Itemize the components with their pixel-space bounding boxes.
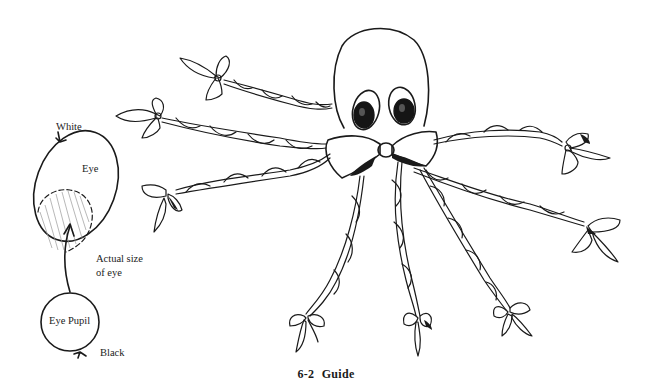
bow-upper-right <box>562 133 610 174</box>
left-eye-pupil <box>354 102 374 128</box>
tentacle-upper-left <box>224 80 332 109</box>
label-black: Black <box>100 346 125 360</box>
label-actual-size-line2: of eye <box>96 266 122 280</box>
tentacle-bottom-2 <box>392 162 420 316</box>
tentacle-lower-left <box>176 154 330 194</box>
size-arrow <box>65 226 70 292</box>
right-eye-pupil <box>394 99 414 123</box>
label-eye: Eye <box>82 162 98 176</box>
tentacle-upper-right <box>434 126 562 146</box>
pupil-size-dashed-outline <box>38 190 92 252</box>
bow-bottom-1 <box>290 315 325 352</box>
bow-mid-left <box>116 98 163 138</box>
bow-bottom-3 <box>494 303 532 336</box>
eye-white-oval <box>19 119 133 253</box>
illustration-canvas: White Eye Actual size of eye Eye Pupil B… <box>0 0 652 388</box>
caption-text: 6-2 Guide <box>297 367 354 381</box>
tentacle-lower-right <box>414 168 584 226</box>
label-white: White <box>56 120 82 134</box>
bow-upper-left <box>180 56 229 100</box>
label-actual-size-line1: Actual size <box>96 252 143 266</box>
right-eye-highlight <box>399 104 405 112</box>
black-arrow-icon <box>74 352 86 358</box>
tentacle-mid-left <box>162 118 326 149</box>
octopus-head <box>334 29 429 133</box>
bow-tie-left-shadow <box>350 156 376 176</box>
octopus-drawing <box>0 0 652 388</box>
bow-lower-left <box>142 185 182 232</box>
tentacle-bottom-3 <box>420 168 510 310</box>
bow-tie-left-loop <box>326 136 380 178</box>
bow-bottom-2 <box>404 313 432 356</box>
figure-caption: 6-2 Guide <box>0 367 652 382</box>
tentacle-bottom-1 <box>306 176 364 316</box>
left-eye-highlight <box>359 108 365 116</box>
label-eye-pupil: Eye Pupil <box>49 314 90 328</box>
